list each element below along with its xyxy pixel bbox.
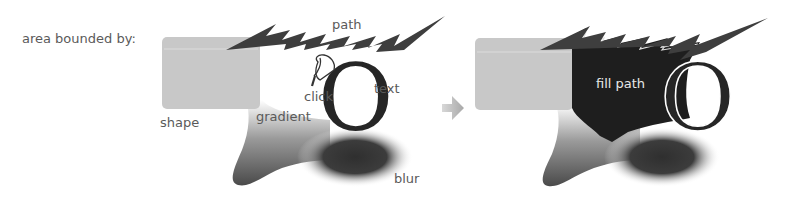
label-shape: shape: [160, 116, 199, 129]
diagram-canvas: O O: [0, 0, 790, 199]
right-panel: O: [475, 18, 768, 187]
text-glyph-o-right: O: [660, 45, 735, 152]
label-blur: blur: [394, 172, 419, 185]
label-text: text: [374, 82, 400, 95]
label-path: path: [332, 18, 362, 31]
label-fill-path: fill path: [596, 77, 645, 90]
label-click: click: [304, 90, 333, 103]
right-arrow-icon: [442, 96, 464, 120]
intro-label: area bounded by:: [22, 32, 136, 45]
label-gradient: gradient: [256, 110, 311, 123]
